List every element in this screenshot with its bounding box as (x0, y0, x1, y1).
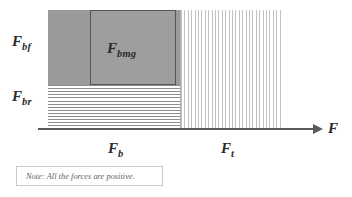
region-fbr (48, 85, 181, 129)
label-fb-base: F (108, 140, 118, 156)
label-fbmg: Fbmg (107, 40, 136, 56)
region-ft-left-edge (180, 10, 181, 129)
label-faxis-base: F (328, 120, 338, 136)
force-diagram-figure: Fbf Fbr Fbmg Fb Ft F Note: All the force… (0, 0, 352, 197)
label-fbr-subscript: br (22, 96, 32, 107)
force-axis-arrowhead (313, 124, 323, 134)
label-axis-segment-ft: Ft (221, 140, 234, 156)
force-axis-line (38, 128, 318, 130)
label-fbr: Fbr (12, 88, 32, 104)
note-text: Note: All the forces are positive. (26, 172, 135, 181)
label-ft-subscript: t (231, 148, 234, 159)
label-ft-base: F (221, 140, 231, 156)
label-force-axis: F (328, 120, 338, 136)
label-fbf-base: F (12, 33, 22, 49)
label-fb-subscript: b (118, 148, 123, 159)
label-fbf-subscript: bf (22, 41, 31, 52)
region-ft (181, 10, 281, 129)
label-axis-segment-fb: Fb (108, 140, 123, 156)
label-fbmg-base: F (107, 40, 117, 56)
note-box: Note: All the forces are positive. (16, 166, 163, 186)
label-fbr-base: F (12, 88, 22, 104)
label-fbmg-subscript: bmg (117, 48, 136, 59)
label-fbf: Fbf (12, 33, 31, 49)
